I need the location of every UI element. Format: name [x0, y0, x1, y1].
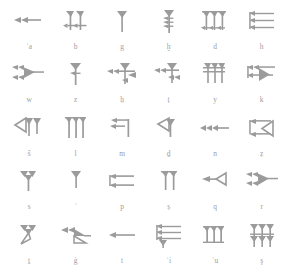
sign-label: ṭ [168, 95, 170, 104]
sign-cell: m [99, 111, 146, 164]
ugaritic-sign-hota-icon [100, 60, 144, 90]
sign-cell: š [6, 111, 53, 164]
ugaritic-sign-kha-icon [147, 7, 191, 37]
sign-label: w [26, 95, 32, 104]
sign-cell: n [192, 111, 239, 164]
sign-cell: s [6, 164, 53, 217]
sign-cell: ġ [53, 218, 100, 271]
ugaritic-sign-i-icon [147, 221, 191, 251]
ugaritic-sign-nun-icon [193, 114, 237, 144]
sign-label: ʾi [166, 256, 171, 265]
ugaritic-sign-rasha-icon [240, 167, 284, 197]
sign-cell: ş [239, 218, 286, 271]
sign-cell: h [239, 4, 286, 57]
ugaritic-sign-ho-icon [240, 7, 284, 37]
ugaritic-sign-pu-icon [100, 167, 144, 197]
sign-label: z [74, 95, 78, 104]
sign-cell: ʾu [192, 218, 239, 271]
sign-label: k [260, 95, 264, 104]
ugaritic-alphabet-chart: ʾa b [0, 0, 291, 273]
sign-cell: ʾa [6, 4, 53, 57]
ugaritic-sign-zeta-icon [54, 60, 98, 90]
sign-cell: w [6, 57, 53, 110]
ugaritic-sign-delta-icon [193, 7, 237, 37]
sign-cell: ḥ [99, 57, 146, 110]
ugaritic-sign-beta-icon [54, 7, 98, 37]
sign-label: s [28, 202, 31, 211]
sign-label: ʾu [212, 256, 219, 265]
sign-label: n [213, 149, 217, 158]
ugaritic-sign-tet-icon [147, 60, 191, 90]
sign-label: ḫ [167, 42, 171, 51]
sign-cell: b [53, 4, 100, 57]
ugaritic-sign-qopa-icon [193, 167, 237, 197]
sign-cell: ṭ [146, 57, 193, 110]
sign-cell: y [192, 57, 239, 110]
ugaritic-sign-shin-icon [7, 114, 51, 144]
sign-cell: ẓ [239, 111, 286, 164]
sign-label: h [260, 42, 264, 51]
sign-label: ş [260, 256, 263, 265]
ugaritic-sign-sade-icon [147, 167, 191, 197]
sign-label: ḏ [167, 149, 171, 158]
ugaritic-sign-to-icon [100, 221, 144, 251]
ugaritic-sign-alpa-icon [7, 7, 51, 37]
sign-cell: d [192, 4, 239, 57]
sign-label: y [213, 95, 217, 104]
sign-label: t [121, 256, 123, 265]
ugaritic-sign-ain-icon [54, 167, 98, 197]
sign-label: ẓ [260, 149, 264, 158]
sign-cell: ʿ [53, 164, 100, 217]
sign-label: g [120, 42, 124, 51]
sign-label: d [213, 42, 217, 51]
sign-cell: t [99, 218, 146, 271]
sign-cell: ḫ [146, 4, 193, 57]
sign-cell: l [53, 111, 100, 164]
sign-cell: p [99, 164, 146, 217]
sign-label: ʾa [26, 42, 32, 51]
ugaritic-sign-yod-icon [193, 60, 237, 90]
sign-cell: k [239, 57, 286, 110]
ugaritic-sign-mem-icon [100, 114, 144, 144]
sign-label: r [260, 202, 263, 211]
ugaritic-sign-thanna-icon [7, 221, 51, 251]
sign-label: p [120, 202, 124, 211]
ugaritic-sign-lamda-icon [54, 114, 98, 144]
ugaritic-sign-zu-icon [240, 114, 284, 144]
sign-label: ṯ [28, 256, 30, 265]
sign-label: ʿ [74, 202, 77, 211]
sign-cell: ʾi [146, 218, 193, 271]
sign-label: b [74, 42, 78, 51]
sign-cell: q [192, 164, 239, 217]
sign-cell: ṣ [146, 164, 193, 217]
ugaritic-sign-u-icon [193, 221, 237, 251]
sign-cell: z [53, 57, 100, 110]
ugaritic-sign-wo-icon [7, 60, 51, 90]
ugaritic-sign-samka-icon [7, 167, 51, 197]
ugaritic-sign-gamla-icon [100, 7, 144, 37]
ugaritic-sign-kaf-icon [240, 60, 284, 90]
sign-label: l [75, 149, 77, 158]
sign-label: š [28, 149, 31, 158]
ugaritic-sign-ssu-icon [240, 221, 284, 251]
ugaritic-sign-dhal-icon [147, 114, 191, 144]
sign-cell: g [99, 4, 146, 57]
sign-label: ḥ [120, 95, 124, 104]
sign-label: ġ [74, 256, 78, 265]
sign-cell: ṯ [6, 218, 53, 271]
sign-label: ṣ [167, 202, 170, 211]
ugaritic-sign-ghain-icon [54, 221, 98, 251]
sign-cell: r [239, 164, 286, 217]
sign-cell: ḏ [146, 111, 193, 164]
sign-label: m [119, 149, 125, 158]
sign-label: q [213, 202, 217, 211]
